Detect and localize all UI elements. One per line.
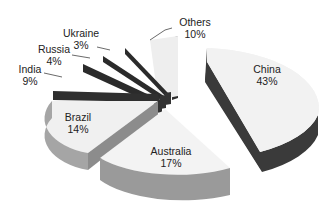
label-china-name: China bbox=[253, 63, 280, 75]
label-others: Others 10% bbox=[179, 16, 211, 40]
label-australia-pct: 17% bbox=[151, 157, 192, 169]
label-brazil: Brazil 14% bbox=[65, 111, 91, 135]
label-australia-name: Australia bbox=[151, 145, 192, 157]
label-china-pct: 43% bbox=[253, 75, 280, 87]
label-others-name: Others bbox=[179, 16, 211, 28]
label-russia-pct: 4% bbox=[38, 55, 70, 67]
label-india-pct: 9% bbox=[19, 75, 42, 87]
label-ukraine: Ukraine 3% bbox=[63, 27, 99, 51]
label-brazil-name: Brazil bbox=[65, 111, 91, 123]
pie-chart bbox=[0, 0, 333, 214]
label-brazil-pct: 14% bbox=[65, 123, 91, 135]
label-china: China 43% bbox=[253, 63, 280, 87]
label-ukraine-name: Ukraine bbox=[63, 27, 99, 39]
label-ukraine-pct: 3% bbox=[63, 39, 99, 51]
label-others-pct: 10% bbox=[179, 28, 211, 40]
label-australia: Australia 17% bbox=[151, 145, 192, 169]
